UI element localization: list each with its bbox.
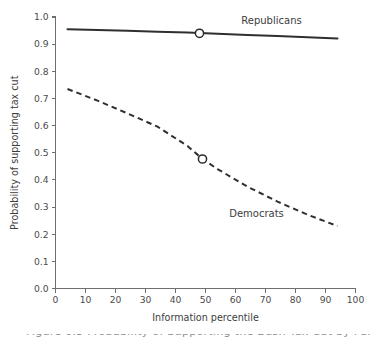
series-label-democrats: Democrats bbox=[229, 208, 284, 219]
marker-democrats bbox=[198, 155, 206, 163]
x-tick-label: 80 bbox=[290, 294, 302, 305]
x-tick-label: 0 bbox=[53, 294, 59, 305]
x-axis-ticks: 0102030405060708090100 bbox=[53, 289, 365, 306]
line-chart: 0.00.10.20.30.40.50.60.70.80.91.0 010203… bbox=[0, 0, 372, 341]
x-tick-label: 10 bbox=[80, 294, 92, 305]
x-tick-label: 40 bbox=[170, 294, 182, 305]
y-tick-label: 0.0 bbox=[34, 283, 49, 294]
x-tick-label: 60 bbox=[230, 294, 242, 305]
x-tick-label: 20 bbox=[110, 294, 122, 305]
y-tick-label: 0.4 bbox=[34, 174, 49, 185]
x-tick-label: 90 bbox=[320, 294, 332, 305]
y-tick-label: 0.9 bbox=[34, 38, 49, 49]
series-label-republicans: Republicans bbox=[241, 15, 301, 26]
y-axis-ticks: 0.00.10.20.30.40.50.60.70.80.91.0 bbox=[34, 11, 56, 294]
x-tick-label: 100 bbox=[347, 294, 365, 305]
marker-republicans bbox=[195, 29, 203, 37]
y-tick-label: 0.5 bbox=[34, 147, 49, 158]
x-tick-label: 30 bbox=[140, 294, 152, 305]
x-tick-label: 50 bbox=[200, 294, 212, 305]
y-tick-label: 0.8 bbox=[34, 66, 49, 77]
y-axis-title: Probability of supporting tax cut bbox=[9, 75, 20, 230]
y-tick-label: 0.3 bbox=[34, 201, 49, 212]
chart-figure: 0.00.10.20.30.40.50.60.70.80.91.0 010203… bbox=[0, 0, 372, 341]
y-tick-label: 0.6 bbox=[34, 120, 49, 131]
figure-caption-strip: Figure 6.5 Probability of Supporting the… bbox=[0, 334, 372, 341]
figure-caption: Figure 6.5 Probability of Supporting the… bbox=[26, 334, 356, 338]
x-tick-label: 70 bbox=[260, 294, 272, 305]
y-tick-label: 0.7 bbox=[34, 93, 49, 104]
x-axis-title: Information percentile bbox=[152, 312, 259, 323]
y-tick-label: 0.2 bbox=[34, 229, 49, 240]
y-tick-label: 0.1 bbox=[34, 256, 49, 267]
y-tick-label: 1.0 bbox=[34, 11, 49, 22]
